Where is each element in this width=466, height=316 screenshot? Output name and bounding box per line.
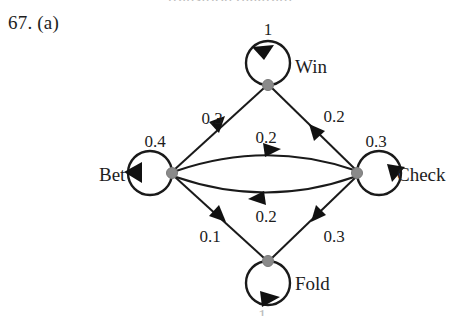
weight-label-check-loop: 0.3	[365, 132, 386, 151]
edge-check-bet-lower	[176, 177, 354, 205]
self-loop-fold	[246, 261, 290, 307]
node-label-win: Win	[295, 56, 327, 77]
state-node-check[interactable]	[352, 168, 363, 179]
weight-label-bet-fold: 0.1	[199, 227, 220, 246]
state-node-win[interactable]	[263, 80, 274, 91]
edge-bet-win	[174, 88, 264, 170]
weight-label-bet-loop: 0.4	[144, 132, 166, 151]
edge-bet-check-upper	[176, 143, 354, 171]
weight-label-fold-check: 0.3	[323, 227, 344, 246]
node-label-check: Check	[397, 164, 446, 185]
bottom-cutoff-text: 1	[258, 306, 298, 316]
weight-label-bet-win: 0.3	[201, 109, 222, 128]
weight-label-win-loop: 1	[264, 20, 273, 39]
weight-label-bet-check: 0.2	[255, 128, 276, 147]
self-loop-bet	[124, 151, 172, 195]
edge-win-check	[272, 88, 356, 170]
weight-label-win-check: 0.2	[323, 107, 344, 126]
node-label-fold: Fold	[295, 273, 330, 294]
weight-label-check-bet: 0.2	[255, 207, 276, 226]
state-node-bet[interactable]	[167, 168, 178, 179]
node-label-bet: Bet	[99, 164, 126, 185]
state-node-fold[interactable]	[263, 256, 274, 267]
self-loop-win	[246, 41, 290, 85]
